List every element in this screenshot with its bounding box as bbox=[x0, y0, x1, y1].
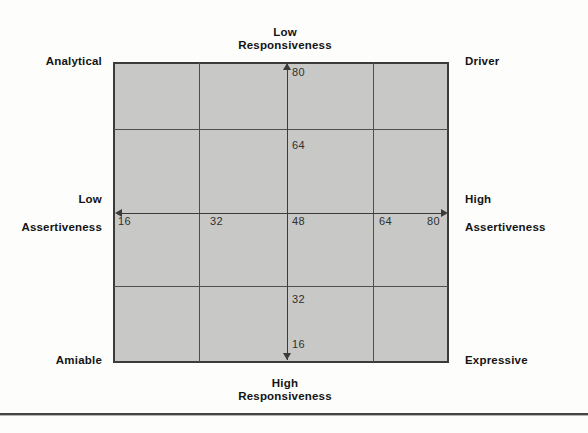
style-label-expressive: Expressive bbox=[465, 354, 528, 367]
assertiveness-tick-48: 48 bbox=[292, 216, 305, 227]
style-label-driver: Driver bbox=[465, 55, 499, 68]
grid-line-horizontal-1 bbox=[114, 129, 448, 130]
assertiveness-tick-64: 64 bbox=[379, 216, 392, 227]
style-label-amiable: Amiable bbox=[0, 354, 102, 367]
axis-label-right-line1: High bbox=[465, 193, 491, 206]
responsiveness-tick-16: 16 bbox=[292, 339, 305, 350]
assertiveness-tick-32: 32 bbox=[210, 216, 223, 227]
style-label-analytical: Analytical bbox=[0, 55, 102, 68]
responsiveness-tick-32: 32 bbox=[292, 294, 305, 305]
axis-label-left-line2: Assertiveness bbox=[0, 221, 102, 234]
assertiveness-axis-line bbox=[117, 213, 446, 214]
responsiveness-tick-80: 80 bbox=[292, 67, 305, 78]
responsiveness-axis-line bbox=[287, 64, 288, 360]
axis-label-top: Low Responsiveness bbox=[135, 26, 435, 52]
axis-label-bottom: High Responsiveness bbox=[135, 377, 435, 403]
grid-line-horizontal-3 bbox=[114, 286, 448, 287]
axis-label-bottom-line2: Responsiveness bbox=[135, 390, 435, 403]
arrow-down-icon bbox=[283, 353, 291, 360]
responsiveness-tick-64: 64 bbox=[292, 140, 305, 151]
axis-label-top-line1: Low bbox=[135, 26, 435, 39]
arrow-right-icon bbox=[441, 209, 448, 217]
axis-label-top-line2: Responsiveness bbox=[135, 39, 435, 52]
arrow-up-icon bbox=[283, 63, 291, 70]
page-divider-rule bbox=[0, 413, 588, 416]
axis-label-left-line1: Low bbox=[0, 193, 102, 206]
axis-label-right-line2: Assertiveness bbox=[465, 221, 546, 234]
social-styles-diagram: 16 32 48 64 80 80 64 32 16 Analytical Dr… bbox=[0, 0, 588, 433]
axis-label-bottom-line1: High bbox=[135, 377, 435, 390]
assertiveness-tick-80: 80 bbox=[427, 216, 440, 227]
assertiveness-tick-16: 16 bbox=[118, 216, 131, 227]
